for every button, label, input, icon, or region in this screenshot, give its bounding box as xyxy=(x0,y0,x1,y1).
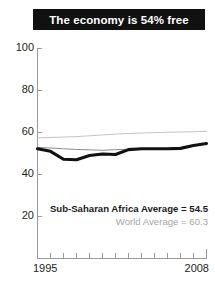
y-axis-label-100: 100 xyxy=(6,42,34,53)
y-axis-label-20: 20 xyxy=(6,210,34,221)
x-tick-1997 xyxy=(63,253,64,258)
x-axis-label-start: 1995 xyxy=(33,262,57,274)
x-tick-2002 xyxy=(128,253,129,258)
x-axis-line xyxy=(37,258,207,259)
y-axis-label-60: 60 xyxy=(6,126,34,137)
y-tick-40 xyxy=(38,174,42,175)
x-tick-2004 xyxy=(154,253,155,258)
economy-freedom-chart: The economy is 54% free 100 80 60 40 20 … xyxy=(0,0,215,301)
chart-title-banner: The economy is 54% free xyxy=(33,9,205,30)
x-tick-2003 xyxy=(141,253,142,258)
x-tick-1996 xyxy=(50,253,51,258)
legend-world-average: World Average = 60.3 xyxy=(46,215,208,228)
x-tick-2008 xyxy=(206,249,207,258)
x-tick-2000 xyxy=(102,253,103,258)
y-tick-20 xyxy=(38,216,42,217)
y-tick-100 xyxy=(38,48,42,49)
x-tick-2005 xyxy=(167,253,168,258)
y-axis-label-40: 40 xyxy=(6,168,34,179)
y-tick-60 xyxy=(38,132,42,133)
y-axis-line xyxy=(37,48,38,259)
x-tick-1995 xyxy=(37,249,38,258)
x-tick-2007 xyxy=(193,253,194,258)
x-tick-1998 xyxy=(76,253,77,258)
x-tick-2006 xyxy=(180,253,181,258)
y-axis-label-80: 80 xyxy=(6,84,34,95)
x-axis-label-end: 2008 xyxy=(185,262,209,274)
chart-legend: Sub-Saharan Africa Average = 54.5 World … xyxy=(46,202,208,228)
page-title: The economy is 54% free xyxy=(49,14,189,26)
sub-saharan-africa-line xyxy=(38,144,207,160)
regional-reference-line xyxy=(38,144,207,150)
world-average-line xyxy=(38,131,207,138)
y-axis-labels: 100 80 60 40 20 xyxy=(2,0,34,301)
y-tick-80 xyxy=(38,90,42,91)
x-tick-2001 xyxy=(115,253,116,258)
x-tick-1999 xyxy=(89,253,90,258)
legend-sub-saharan-africa: Sub-Saharan Africa Average = 54.5 xyxy=(46,202,208,215)
